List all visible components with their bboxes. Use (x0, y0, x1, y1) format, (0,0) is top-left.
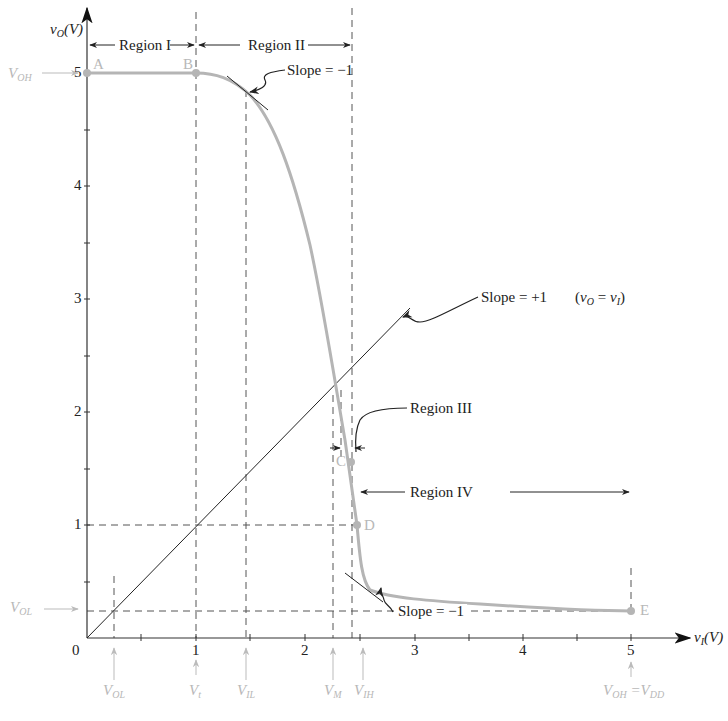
point-d-label: D (364, 518, 375, 533)
y-tick-3: 3 (74, 291, 82, 306)
vtc-curve (87, 73, 631, 611)
point-d-marker (353, 521, 361, 529)
axes (87, 8, 690, 638)
region-3-label: Region III (410, 401, 472, 416)
vtc-chart (0, 0, 728, 721)
slope-top-callout (250, 70, 285, 92)
point-e-label: E (640, 603, 649, 618)
y-tick-1: 1 (74, 517, 82, 532)
vm-bottom-label: VM (324, 683, 342, 700)
x-tick-3: 3 (411, 643, 419, 658)
y-tick-5: 5 (74, 65, 82, 80)
x-axis-label: vI(V) (694, 630, 723, 647)
vol-bottom-label: VOL (103, 683, 125, 700)
point-e-marker (627, 607, 635, 615)
voh-left-label: VOH (8, 66, 32, 83)
slope-unity-label: Slope = +1(vO = vI) (481, 290, 625, 307)
point-b-label: B (183, 57, 193, 72)
slope-top-label: Slope = −1 (287, 63, 353, 78)
point-c-label: C (336, 454, 346, 469)
x-tick-5: 5 (627, 643, 635, 658)
vt-bottom-label: Vt (189, 683, 201, 700)
y-tick-2: 2 (74, 404, 82, 419)
region-4-label: Region IV (410, 485, 473, 500)
point-b-marker (192, 69, 200, 77)
voh-vdd-bottom-label: VOH =VDD (603, 683, 664, 700)
region-2-label: Region II (248, 38, 305, 53)
x-tick-4: 4 (519, 643, 527, 658)
y-axis-label: vO(V) (50, 22, 83, 39)
region3-callout (355, 408, 407, 452)
slope-bottom-callout (381, 588, 393, 612)
x-tick-2: 2 (301, 643, 309, 658)
origin-label: 0 (72, 643, 80, 658)
x-tick-1: 1 (192, 643, 200, 658)
region-1-label: Region I (119, 38, 171, 53)
marker-arrows (42, 73, 631, 680)
point-a-marker (83, 69, 91, 77)
point-a-label: A (93, 57, 104, 72)
unity-slope-line (87, 308, 410, 638)
vil-bottom-label: VIL (237, 683, 255, 700)
y-tick-4: 4 (74, 178, 82, 193)
region-arrows (90, 45, 629, 492)
tangent-top (227, 76, 268, 110)
vol-left-label: VOL (10, 600, 32, 617)
point-c-marker (347, 458, 355, 466)
slope-unity-callout (403, 297, 478, 322)
vih-bottom-label: VIH (354, 683, 374, 700)
slope-bottom-label: Slope = −1 (395, 604, 467, 619)
caption-cropped: ▬▬▬▬▬ ▬▬▬▬ ▬▬▬ ▬▬▬▬▬▬ (55, 715, 455, 721)
